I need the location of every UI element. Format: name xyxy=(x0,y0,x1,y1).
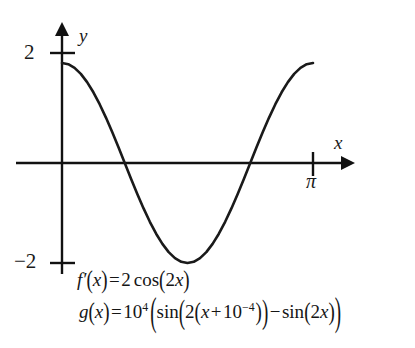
g-big-open-paren: ( xyxy=(150,291,156,332)
g-fn: g xyxy=(79,301,89,322)
x-axis-label: x xyxy=(334,133,342,152)
g-close-paren: ) xyxy=(103,299,109,323)
fprime-inner-coeff: 2 xyxy=(165,269,175,290)
formula-g: g(x)=104(sin(2(x+10−4))−sin(2x)) xyxy=(79,302,341,321)
g-plus: + xyxy=(209,301,223,322)
g-two-a: 2 xyxy=(185,301,195,322)
g-trig-2: sin xyxy=(282,301,304,322)
fprime-equals: = xyxy=(108,269,122,290)
fprime-open-paren: ( xyxy=(86,267,92,291)
formula-f-prime: f′(x)=2cos(2x) xyxy=(77,270,190,289)
g-paren1-open: ( xyxy=(179,295,185,328)
g-two-b: 2 xyxy=(310,301,320,322)
fprime-close-paren: ) xyxy=(101,267,107,291)
fprime-arg: x xyxy=(93,269,101,290)
g-trig-1: sin xyxy=(157,301,179,322)
g-paren3-open: ( xyxy=(304,299,310,323)
g-big-close-paren: ) xyxy=(335,291,341,332)
x-tick-label-pi: π xyxy=(306,171,316,191)
g-epsilon-base: 10 xyxy=(223,301,242,322)
y-tick-label-2: 2 xyxy=(24,42,35,63)
g-epsilon-exponent: −4 xyxy=(242,301,255,314)
function-plot-figure xyxy=(0,0,415,348)
g-exponent: 4 xyxy=(142,301,148,314)
y-tick-label-minus-2: −2 xyxy=(14,251,36,272)
g-paren1-close: ) xyxy=(262,295,268,328)
fprime-inner-open: ( xyxy=(159,267,165,291)
g-base: 10 xyxy=(123,301,142,322)
g-arg: x xyxy=(95,301,103,322)
g-var-b: x xyxy=(320,301,328,322)
fprime-coeff: 2 xyxy=(121,269,131,290)
g-equals: = xyxy=(110,301,124,322)
g-paren2-open: ( xyxy=(195,299,201,323)
fprime-trig: cos xyxy=(131,269,159,290)
g-open-paren: ( xyxy=(89,299,95,323)
g-minus: − xyxy=(268,301,282,322)
fprime-inner-close: ) xyxy=(183,267,189,291)
y-axis-label: y xyxy=(79,26,87,45)
fprime-inner-var: x xyxy=(175,269,183,290)
